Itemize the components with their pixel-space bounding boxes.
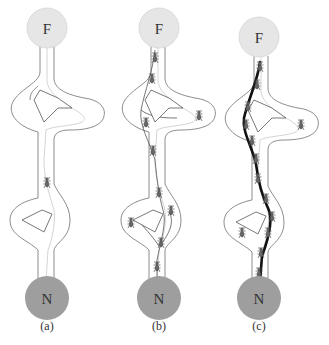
panel-label-b: (b) [152, 319, 166, 333]
ant-icon [257, 62, 264, 72]
ant-icon [168, 206, 175, 216]
inner-path [44, 46, 84, 282]
panel-label-c: (c) [252, 319, 265, 333]
shortest-pheromone-trail [244, 62, 271, 282]
corridor-outline [224, 56, 318, 282]
food-label: F [43, 21, 51, 37]
obstacle-lower [22, 210, 52, 232]
nest-label: N [154, 291, 165, 307]
nest-label: N [42, 291, 53, 307]
ant-icon [298, 120, 305, 130]
panel-a: F N (a) [10, 8, 104, 333]
food-label: F [155, 21, 163, 37]
panel-b: F N (b) [121, 8, 215, 333]
corridor-outline [10, 46, 104, 282]
nest-label: N [254, 291, 265, 307]
ant-colony-diagram: F N (a) F N (b) [0, 0, 329, 345]
ant-icon [44, 178, 51, 188]
corridor-outline [121, 46, 215, 282]
ant-icon [196, 111, 203, 121]
ant-icon [156, 188, 163, 198]
panel-c: F N (c) [224, 17, 318, 333]
panel-label-a: (a) [40, 319, 53, 333]
ant-icon [143, 118, 150, 128]
ant-icon [255, 174, 262, 184]
ant-icon [239, 228, 246, 238]
ant-icon [154, 262, 161, 272]
ant-icon [152, 53, 159, 63]
food-label: F [255, 30, 263, 46]
ant-icon [158, 238, 165, 248]
obstacle-upper [34, 90, 72, 122]
